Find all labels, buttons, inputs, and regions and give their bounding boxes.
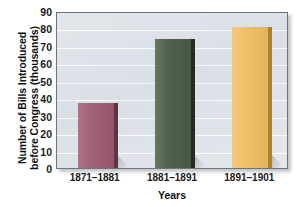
- bar-body: [78, 103, 114, 168]
- y-axis-tick-label: 10: [30, 146, 52, 157]
- bar-side-edge: [114, 103, 118, 168]
- bar: [155, 39, 191, 168]
- bar-chart: Number of Bills Introduced before Congre…: [0, 0, 299, 207]
- y-axis-title-line1: Number of Bills Introduced: [16, 32, 29, 164]
- y-axis-tick-label: 80: [30, 24, 52, 35]
- bar: [78, 103, 114, 168]
- bar-side-edge: [268, 27, 272, 168]
- x-axis-title: Years: [56, 189, 288, 201]
- bar-sheen: [155, 39, 191, 168]
- bar-sheen: [78, 103, 114, 168]
- x-axis-tick-labels: 1871–18811881–18911891–1901: [56, 172, 288, 186]
- y-axis-tick-label: 50: [30, 76, 52, 87]
- y-axis-tick-labels: 0102030405060708090: [30, 7, 52, 169]
- x-axis-tick-label: 1891–1901: [224, 172, 274, 184]
- y-axis-tick-label: 0: [30, 164, 52, 175]
- y-axis-tick-label: 70: [30, 41, 52, 52]
- plot-area: [56, 12, 288, 169]
- bar-sheen: [232, 27, 268, 168]
- bar-body: [155, 39, 191, 168]
- bar: [232, 27, 268, 168]
- y-axis-tick-label: 60: [30, 59, 52, 70]
- bars-layer: [57, 13, 287, 168]
- y-axis-tick-label: 40: [30, 94, 52, 105]
- bar-body: [232, 27, 268, 168]
- y-axis-tick-label: 30: [30, 111, 52, 122]
- x-axis-tick-label: 1871–1881: [70, 172, 120, 184]
- y-axis-tick-label: 90: [30, 7, 52, 18]
- bar-side-edge: [191, 39, 195, 168]
- y-axis-tick-label: 20: [30, 129, 52, 140]
- x-axis-tick-label: 1881–1891: [147, 172, 197, 184]
